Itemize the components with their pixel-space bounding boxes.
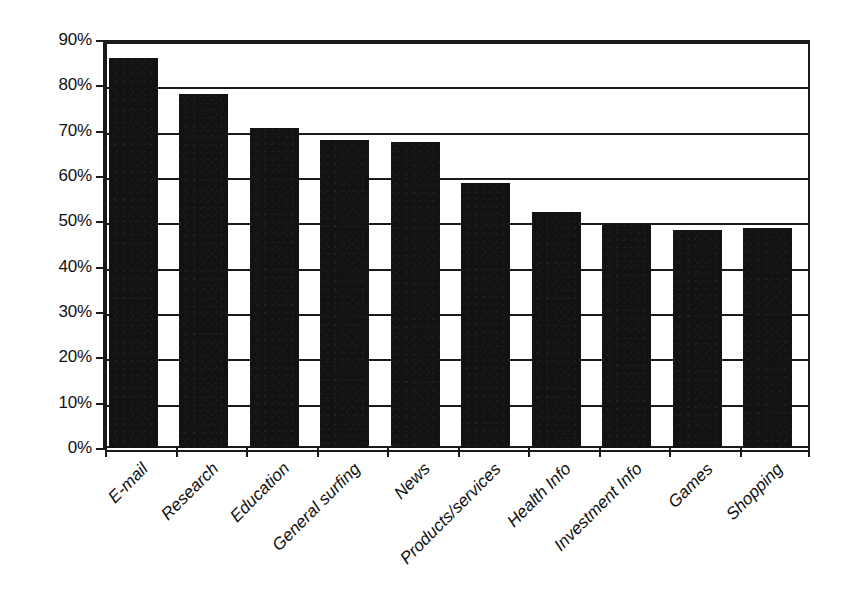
- x-axis-labels: E-mailResearchEducationGeneral surfingNe…: [105, 458, 810, 608]
- bar: [391, 142, 440, 448]
- x-axis-tick-mark: [458, 448, 460, 457]
- bar: [461, 183, 510, 448]
- bar: [179, 94, 228, 448]
- x-axis-label: Games: [665, 460, 716, 511]
- bar: [250, 128, 299, 448]
- x-axis-label: Health Info: [504, 460, 575, 531]
- x-axis-tick-mark: [808, 448, 810, 457]
- bar: [673, 230, 722, 448]
- bar-chart: 90%80%70%60%50%40%30%20%10%0% E-mailRese…: [0, 0, 861, 616]
- x-axis-tick-mark: [246, 448, 248, 457]
- y-axis-tick-marks: [0, 40, 110, 448]
- x-axis-tick-mark: [387, 448, 389, 457]
- x-axis-tick-mark: [105, 448, 107, 457]
- x-axis-label: E-mail: [105, 460, 152, 507]
- bar: [532, 212, 581, 448]
- x-axis-tick-mark: [528, 448, 530, 457]
- x-axis-tick-mark: [317, 448, 319, 457]
- bar: [602, 224, 651, 448]
- x-axis-label: News: [391, 460, 434, 503]
- x-axis-tick-mark: [176, 448, 178, 457]
- x-axis-label: Shopping: [723, 460, 787, 524]
- x-axis-label: Research: [158, 460, 222, 524]
- bar: [109, 58, 158, 448]
- bar: [743, 228, 792, 448]
- bar: [320, 140, 369, 448]
- bars-layer: [105, 40, 810, 448]
- x-axis-tick-mark: [669, 448, 671, 457]
- x-axis-tick-mark: [599, 448, 601, 457]
- x-axis-tick-mark: [740, 448, 742, 457]
- x-axis-label: Education: [227, 460, 293, 526]
